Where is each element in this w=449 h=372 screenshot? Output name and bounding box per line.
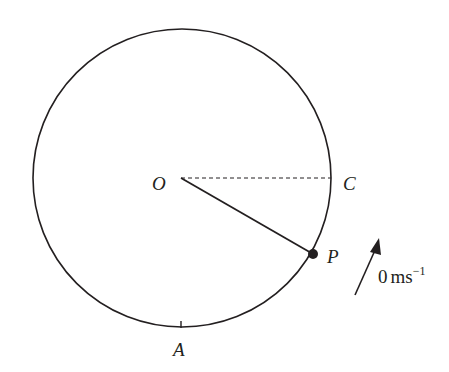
label-a: A	[171, 339, 185, 360]
velocity-unit: ms	[391, 266, 413, 287]
label-p: P	[326, 246, 339, 267]
velocity-exponent: −1	[413, 264, 426, 278]
label-o: O	[152, 173, 166, 194]
circle-diagram: O C P A 0ms−1	[0, 0, 449, 372]
velocity-arrow-head	[370, 238, 381, 255]
velocity-arrow-shaft	[355, 248, 376, 295]
velocity-label: 0ms−1	[378, 264, 425, 287]
radius-op	[181, 178, 313, 254]
particle-p	[308, 249, 318, 259]
label-c: C	[343, 173, 356, 194]
velocity-value: 0	[378, 266, 388, 287]
